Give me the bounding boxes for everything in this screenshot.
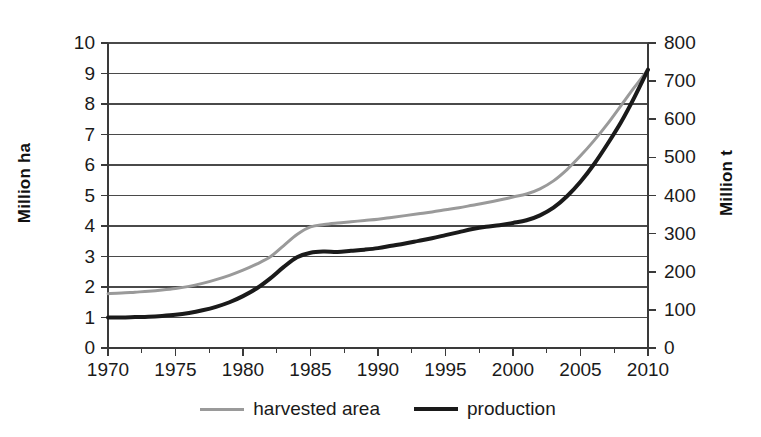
legend-swatch-production xyxy=(414,407,458,411)
legend-item-harvested-area: harvested area xyxy=(200,398,380,420)
chart-legend: harvested area production xyxy=(108,398,648,420)
line-chart: Million ha Million t 012345678910 010020… xyxy=(0,0,761,437)
series-line-harvested-area xyxy=(108,70,648,294)
series-line-production xyxy=(108,70,648,318)
legend-label-production: production xyxy=(467,398,556,420)
legend-label-harvested-area: harvested area xyxy=(253,398,380,420)
data-series xyxy=(108,70,648,318)
legend-swatch-harvested-area xyxy=(200,408,244,411)
plot-area xyxy=(0,0,761,437)
tick-marks xyxy=(101,43,656,356)
legend-item-production: production xyxy=(414,398,556,420)
